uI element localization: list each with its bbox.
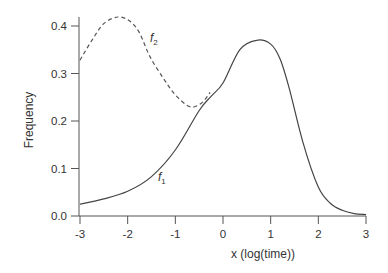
f1-solid-curve: [80, 40, 366, 215]
x-axis-label: x (log(time)): [231, 247, 295, 261]
f2-label: f2: [150, 31, 158, 47]
y-tick-label: 0.0: [51, 210, 67, 222]
x-tick-label: -2: [123, 228, 133, 240]
chart: 0.00.10.20.30.4 -3-2-10123 Frequency x (…: [0, 0, 388, 273]
f1-label: f1: [158, 170, 166, 186]
x-tick-label: -3: [75, 228, 85, 240]
y-axis-label: Frequency: [22, 92, 36, 149]
x-tick-label: 1: [267, 228, 273, 240]
x-axis: -3-2-10123: [75, 216, 369, 240]
f2-dashed-curve: [80, 17, 210, 107]
x-tick-label: 0: [220, 228, 226, 240]
y-tick-label: 0.1: [51, 163, 67, 175]
y-axis: 0.00.10.20.30.4: [51, 17, 79, 222]
x-tick-label: -1: [170, 228, 180, 240]
y-tick-label: 0.3: [51, 68, 67, 80]
y-tick-label: 0.2: [51, 115, 67, 127]
y-tick-label: 0.4: [51, 20, 68, 32]
x-tick-label: 3: [363, 228, 369, 240]
x-tick-label: 2: [315, 228, 321, 240]
